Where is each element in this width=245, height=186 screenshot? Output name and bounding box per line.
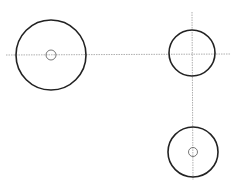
centerline-vertical [192, 12, 193, 180]
centerline-horizontal [6, 54, 231, 55]
technical-drawing [0, 0, 245, 186]
centerlines [6, 12, 231, 180]
circles [16, 20, 218, 177]
